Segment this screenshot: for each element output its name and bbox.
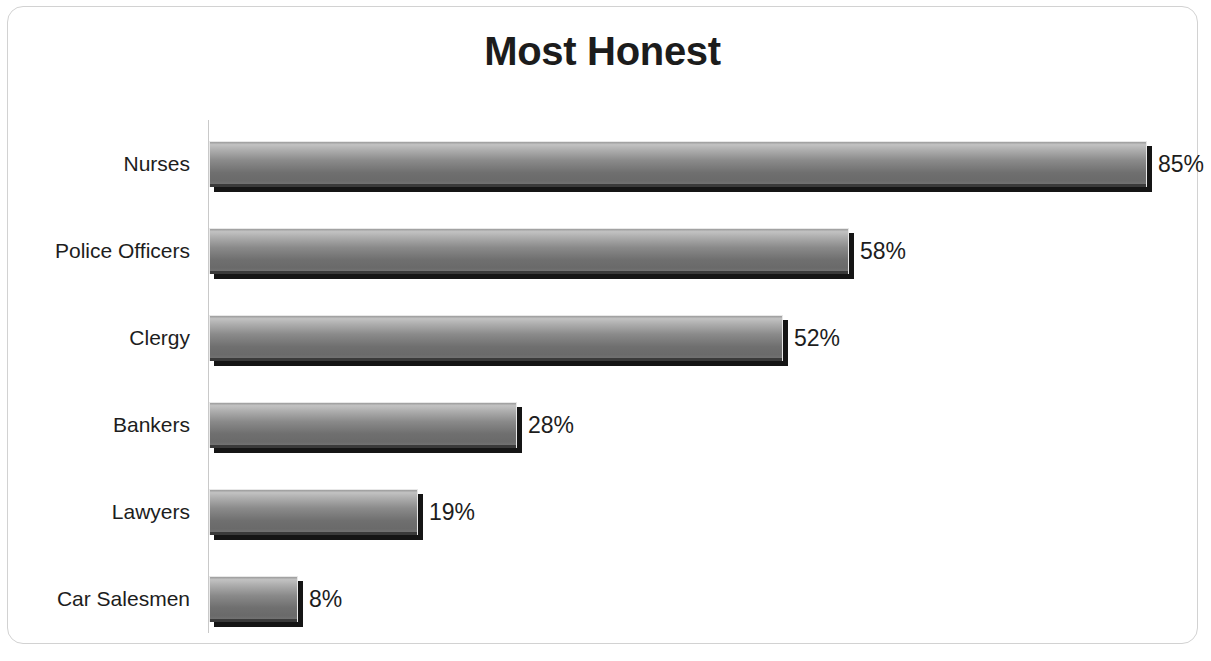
bar-body	[209, 141, 1147, 187]
bar-row: Lawyers 19%	[8, 486, 1199, 538]
bar[interactable]	[209, 576, 298, 622]
value-label: 8%	[309, 573, 342, 625]
bar[interactable]	[209, 315, 783, 361]
bar-body	[209, 402, 517, 448]
bar[interactable]	[209, 228, 849, 274]
bar[interactable]	[209, 141, 1147, 187]
bar-body	[209, 228, 849, 274]
category-label: Lawyers	[112, 486, 190, 538]
bar[interactable]	[209, 402, 517, 448]
bar-row: Car Salesmen 8%	[8, 573, 1199, 625]
category-label: Car Salesmen	[57, 573, 190, 625]
chart-frame: Most Honest Nurses 85% Police Officers 5…	[7, 6, 1198, 644]
category-label: Police Officers	[55, 225, 190, 277]
value-label: 52%	[794, 312, 840, 364]
bar-body	[209, 315, 783, 361]
bar[interactable]	[209, 489, 418, 535]
bar-body	[209, 576, 298, 622]
value-label: 19%	[429, 486, 475, 538]
bar-row: Bankers 28%	[8, 399, 1199, 451]
value-label: 85%	[1158, 138, 1204, 190]
bar-body	[209, 489, 418, 535]
bar-row: Nurses 85%	[8, 138, 1199, 190]
plot-area: Nurses 85% Police Officers 58% Clergy 52…	[8, 7, 1199, 645]
category-axis-line	[208, 120, 209, 633]
category-label: Clergy	[129, 312, 190, 364]
bar-row: Clergy 52%	[8, 312, 1199, 364]
category-label: Nurses	[123, 138, 190, 190]
value-label: 58%	[860, 225, 906, 277]
bar-row: Police Officers 58%	[8, 225, 1199, 277]
value-label: 28%	[528, 399, 574, 451]
category-label: Bankers	[113, 399, 190, 451]
